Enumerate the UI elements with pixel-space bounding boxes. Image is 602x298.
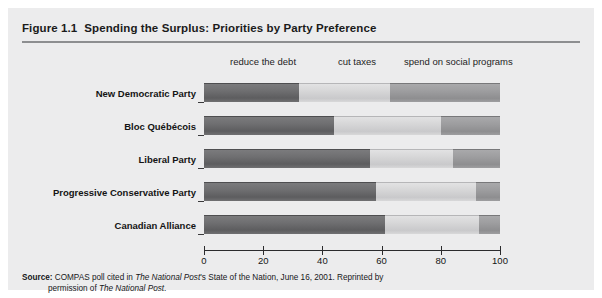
x-tick-4: [441, 246, 442, 255]
stacked-bars: [204, 78, 500, 250]
source-text-1: COMPAS poll cited in: [52, 273, 135, 282]
series-header-1: cut taxes: [338, 56, 376, 67]
figure-panel: Figure 1.1Spending the Surplus: Prioriti…: [8, 8, 594, 290]
series-header-2: spend on social programs: [404, 56, 513, 67]
x-tick-0: [204, 246, 205, 255]
bar-segment: [441, 116, 500, 135]
source-italic-1: The National Post: [135, 273, 200, 282]
bar-segment: [385, 215, 480, 234]
category-label-0: New Democratic Party: [96, 87, 196, 98]
bar-segment: [476, 182, 500, 201]
series-header-labels: reduce the debtcut taxesspend on social …: [8, 56, 594, 72]
x-tick-3: [382, 246, 383, 255]
bar-row: [204, 149, 500, 168]
x-tick-1: [263, 246, 264, 255]
bar-segment: [299, 83, 391, 102]
source-note: Source: COMPAS poll cited in The Nationa…: [22, 272, 542, 294]
source-line-2: permission of The National Post.: [22, 283, 542, 294]
bar-segment: [453, 149, 500, 168]
x-tick-label-1: 20: [258, 255, 269, 266]
bar-row: [204, 83, 500, 102]
x-tick-label-5: 100: [492, 255, 508, 266]
x-tick-label-3: 60: [376, 255, 387, 266]
category-label-2: Liberal Party: [138, 153, 196, 164]
bar-segment: [334, 116, 441, 135]
bar-row: [204, 182, 500, 201]
bar-row: [204, 215, 500, 234]
series-header-0: reduce the debt: [230, 56, 296, 67]
source-text-2: 's State of the Nation, June 16, 2001. R…: [200, 273, 383, 282]
source-text-4: .: [164, 284, 166, 293]
x-tick-label-0: 0: [201, 255, 206, 266]
category-label-1: Bloc Québécois: [124, 120, 196, 131]
bar-segment: [370, 149, 453, 168]
bar-segment: [204, 215, 385, 234]
bar-segment: [204, 116, 334, 135]
bar-row: [204, 116, 500, 135]
category-label-3: Progressive Conservative Party: [53, 186, 196, 197]
x-tick-2: [322, 246, 323, 255]
x-tick-5: [500, 246, 501, 255]
bar-segment: [204, 182, 376, 201]
bar-segment: [376, 182, 477, 201]
x-tick-label-4: 80: [436, 255, 447, 266]
source-label: Source:: [22, 273, 52, 282]
source-text-3: permission of: [48, 284, 99, 293]
bar-segment: [204, 149, 370, 168]
bar-segment: [204, 83, 299, 102]
bar-segment: [390, 83, 500, 102]
chart-plot-area: reduce the debtcut taxesspend on social …: [8, 8, 594, 290]
source-italic-2: The National Post: [99, 284, 164, 293]
bar-segment: [479, 215, 500, 234]
x-axis-line: [204, 250, 501, 251]
x-tick-label-2: 40: [317, 255, 328, 266]
category-label-4: Canadian Alliance: [115, 219, 196, 230]
